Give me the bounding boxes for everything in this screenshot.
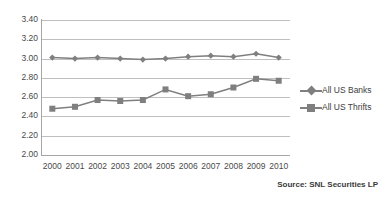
x-tick-label: 2004	[132, 160, 155, 174]
series-line	[52, 79, 278, 109]
legend-diamond-icon	[300, 85, 322, 96]
x-tick-label: 2002	[86, 160, 109, 174]
gridline-2.20	[41, 136, 290, 137]
chart-container: 3.403.203.002.802.602.402.202.00 2000200…	[0, 0, 384, 203]
data-point-square-icon	[163, 86, 169, 92]
chart-legend: All US BanksAll US Thrifts	[300, 82, 384, 116]
y-tick-label: 3.20	[4, 34, 38, 43]
data-point-square-icon	[49, 106, 55, 112]
x-tick-label: 2008	[222, 160, 245, 174]
y-tick-label: 2.60	[4, 92, 38, 101]
series-all-us-thrifts	[49, 76, 281, 112]
data-point-square-icon	[230, 85, 236, 91]
source-note: Source: SNL Securities LP	[277, 180, 378, 189]
gridline-2.00	[41, 155, 290, 156]
legend-item-label: All US Thrifts	[322, 102, 371, 113]
x-tick-label: 2007	[199, 160, 222, 174]
x-tick-label: 2006	[177, 160, 200, 174]
y-axis-line	[41, 19, 42, 156]
x-tick-label: 2005	[154, 160, 177, 174]
y-tick-label: 2.40	[4, 111, 38, 120]
x-tick-label: 2001	[64, 160, 87, 174]
y-tick-label: 2.80	[4, 73, 38, 82]
data-point-diamond-icon	[208, 53, 214, 59]
legend-item-all-us-banks[interactable]: All US Banks	[300, 82, 384, 99]
legend-square-icon	[300, 102, 322, 113]
legend-item-label: All US Banks	[322, 85, 372, 96]
y-tick-label: 3.40	[4, 15, 38, 24]
gridline-2.80	[41, 78, 290, 79]
gridline-3.00	[41, 59, 290, 60]
series-all-us-banks	[49, 51, 282, 63]
x-tick-label: 2003	[109, 160, 132, 174]
legend-item-all-us-thrifts[interactable]: All US Thrifts	[300, 99, 384, 116]
data-point-square-icon	[117, 98, 123, 104]
gridline-3.20	[41, 39, 290, 40]
chart-title-clipped	[0, 0, 384, 6]
x-tick-label: 2010	[267, 160, 290, 174]
data-point-square-icon	[72, 104, 78, 110]
x-axis-tick-labels: 2000200120022003200420052006200720082009…	[41, 160, 290, 174]
data-point-diamond-icon	[253, 51, 259, 57]
gridline-2.40	[41, 116, 290, 117]
gridline-3.40	[41, 20, 290, 21]
y-tick-label: 2.00	[4, 150, 38, 159]
gridline-2.60	[41, 97, 290, 98]
y-tick-label: 3.00	[4, 54, 38, 63]
x-tick-label: 2009	[245, 160, 268, 174]
y-tick-label: 2.20	[4, 131, 38, 140]
y-axis-tick-labels: 3.403.203.002.802.602.402.202.00	[0, 0, 38, 203]
x-tick-label: 2000	[41, 160, 64, 174]
